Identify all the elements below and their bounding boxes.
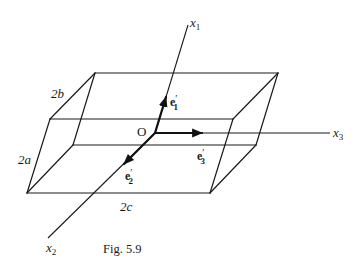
- dimension-2a-label: 2a: [18, 152, 32, 167]
- rectangular-box-diagram: O x1 x3 x2 e′1 e′2 e′3 2b 2a 2c Fig. 5.9: [0, 0, 359, 268]
- axis-x2-label: x2: [45, 240, 56, 257]
- edge-vertical-front-right: [210, 119, 233, 193]
- dimension-2b-label: 2b: [51, 86, 65, 101]
- axis-x1-label: x1: [189, 15, 200, 32]
- vector-e2-label: e′2: [125, 167, 134, 186]
- origin-label: O: [137, 124, 146, 139]
- figure-caption: Fig. 5.9: [103, 242, 142, 256]
- vector-e3-label: e′3: [197, 147, 206, 166]
- vector-e1-label: e′1: [170, 93, 179, 112]
- dimension-2c-label: 2c: [120, 199, 133, 214]
- axis-x3-label: x3: [332, 125, 344, 142]
- vector-e1-arrow: [155, 97, 166, 133]
- basis-vectors: [124, 97, 202, 164]
- coordinate-axes: [48, 25, 330, 238]
